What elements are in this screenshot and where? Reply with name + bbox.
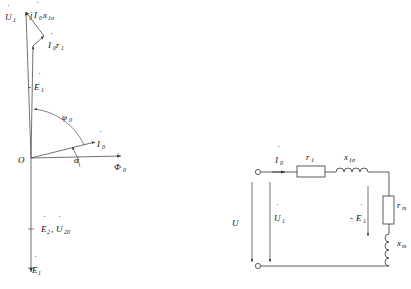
i0r1-phasor <box>33 36 44 46</box>
label-e2-text: E <box>40 224 47 234</box>
label-alpha: α <box>74 155 79 165</box>
label-e1-bottom: ˙ E 1 <box>31 254 41 276</box>
minus-e1-phasor <box>31 46 33 158</box>
svg-text:˙: ˙ <box>276 202 279 212</box>
label-i0-phasor: ˙ I 0 <box>96 129 105 150</box>
circuit-label-x1sigma: x 1σ <box>343 152 356 163</box>
circuit-label-i0-sub: 0 <box>280 160 283 166</box>
circuit-label-rm-text: r <box>397 200 401 210</box>
resistor-r1 <box>297 166 325 177</box>
circuit-label-rm: r m <box>397 200 407 211</box>
label-jix-x-sub: 1σ <box>48 15 55 21</box>
label-jix-j: j <box>29 10 33 20</box>
svg-text:˙: ˙ <box>277 144 280 154</box>
svg-text:˙: ˙ <box>117 151 120 161</box>
label-jix-x: x <box>42 10 47 20</box>
label-flux: ˙ Φ 0 <box>114 151 126 173</box>
svg-text:˙: ˙ <box>34 254 37 264</box>
i0-phasor <box>31 142 95 158</box>
label-e2-sub: 2 <box>47 229 50 235</box>
label-i0-text: I <box>96 139 101 149</box>
svg-text:˙: ˙ <box>99 129 102 139</box>
phasor-diagram-group: ˙ U 1 ˙ j I 0 x 1σ ˙ I 0 r 1 <box>5 0 126 276</box>
label-u1-sub: 1 <box>13 17 16 23</box>
svg-text:˙: ˙ <box>43 214 46 224</box>
label-u1: ˙ U 1 <box>5 3 16 23</box>
svg-text:˙: ˙ <box>38 71 41 81</box>
figure-canvas: ˙ U 1 ˙ j I 0 x 1σ ˙ I 0 r 1 <box>0 0 411 289</box>
circuit-label-minus-e1-sub: 1 <box>363 218 366 224</box>
label-ji0x1sigma: ˙ j I 0 x 1σ <box>29 0 55 21</box>
svg-text:˙: ˙ <box>58 214 61 224</box>
label-i0-sub: 0 <box>102 144 105 150</box>
label-u20-text: U <box>56 224 63 234</box>
label-minus-e1-phasor: ˙ - E 1 <box>28 71 44 93</box>
circuit-label-u1: ˙ U 1 <box>274 202 285 224</box>
circuit-label-i0: ˙ I 0 <box>274 144 283 166</box>
label-flux-text: Φ <box>114 162 121 172</box>
circuit-label-xm-text: x <box>396 238 401 248</box>
circuit-label-xm: x m <box>396 238 407 249</box>
svg-text:˙: ˙ <box>36 0 39 10</box>
circuit-label-r1-text: r <box>306 152 310 162</box>
label-flux-sub: 0 <box>123 167 126 173</box>
inductor-xm <box>385 234 389 266</box>
inductor-x1sigma <box>336 168 368 172</box>
circuit-label-u1-sub: 1 <box>282 218 285 224</box>
label-i0r1-i: I <box>47 40 52 50</box>
label-jix-i-sub: 0 <box>39 15 42 21</box>
circuit-label-x1s-sub: 1σ <box>349 157 356 163</box>
resistor-rm <box>383 196 394 224</box>
circuit-label-u1-text: U <box>274 213 281 223</box>
label-e1-sub: 1 <box>38 270 41 276</box>
label-phi0: φ 0 <box>62 112 72 123</box>
label-i0r1: ˙ I 0 r 1 <box>47 31 64 51</box>
circuit-label-u: U <box>232 218 239 228</box>
label-jix-i: I <box>33 10 38 20</box>
figure-svg: ˙ U 1 ˙ j I 0 x 1σ ˙ I 0 r 1 <box>0 0 411 289</box>
label-e1-text: E <box>31 265 38 275</box>
circuit-diagram-group: ˙ I 0 r 1 x 1σ r m x m U ˙ <box>232 144 407 269</box>
svg-text:˙: ˙ <box>360 202 363 212</box>
circuit-label-xm-sub: m <box>402 243 407 249</box>
label-u1-text: U <box>5 12 12 22</box>
label-e2-u20: ˙ E 2 , ˙ U 20 <box>40 214 70 235</box>
circuit-label-minus-e1: ˙ - E 1 <box>350 202 366 224</box>
circuit-label-x1s-text: x <box>343 152 348 162</box>
label-phi0-text: φ <box>62 112 67 122</box>
label-e2u20-comma: , <box>51 224 53 234</box>
terminal-top <box>255 169 260 174</box>
circuit-label-rm-sub: m <box>402 205 407 211</box>
label-i0r1-r: r <box>56 40 60 50</box>
label-minus-e1-sign: - <box>28 82 31 92</box>
label-minus-e1-e: E <box>33 82 40 92</box>
circuit-label-r1: r 1 <box>306 152 314 163</box>
circuit-label-i0-text: I <box>274 155 279 165</box>
label-u20-sub: 20 <box>64 229 70 235</box>
circuit-label-minus-e1-sign: - <box>350 213 353 223</box>
label-origin: O <box>18 155 25 165</box>
label-i0r1-r-sub: 1 <box>61 45 64 51</box>
label-minus-e1-sub: 1 <box>41 87 44 93</box>
terminal-bottom <box>255 263 260 268</box>
phi0-arc <box>34 109 84 145</box>
circuit-label-minus-e1-e: E <box>355 213 362 223</box>
circuit-label-r1-sub: 1 <box>311 157 314 163</box>
label-phi0-sub: 0 <box>69 117 72 123</box>
